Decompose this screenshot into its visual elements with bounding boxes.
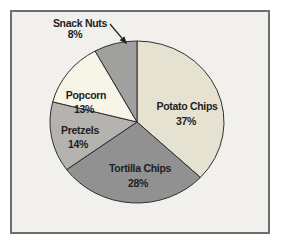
pie-chart: Potato Chips37%Tortilla Chips28%Pretzels…	[0, 0, 281, 241]
callout-arrow-line	[110, 24, 126, 43]
figure: Potato Chips37%Tortilla Chips28%Pretzels…	[0, 0, 281, 241]
slice-label-snack-nuts: Snack Nuts8%	[53, 17, 108, 40]
